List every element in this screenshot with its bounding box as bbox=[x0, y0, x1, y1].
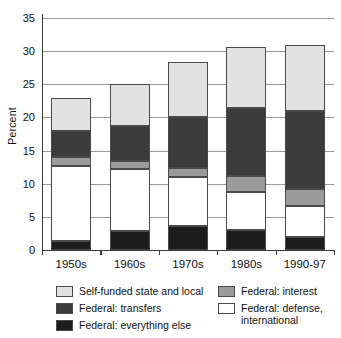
bar-segment bbox=[226, 192, 266, 230]
bar-segment bbox=[168, 62, 208, 116]
bar-column-1980s[interactable] bbox=[226, 18, 266, 250]
bar-segment bbox=[51, 98, 91, 131]
bar-segment bbox=[285, 237, 325, 250]
chart-figure: Percent 05101520253035 1950s1960s1970s19… bbox=[0, 0, 341, 338]
x-tick-mark bbox=[100, 250, 101, 255]
bar-column-1990-97[interactable] bbox=[285, 18, 325, 250]
bar-segment bbox=[51, 241, 91, 250]
y-tick-label-35: 35 bbox=[23, 13, 35, 24]
bar-segment bbox=[168, 117, 208, 169]
x-tick-label-1960s: 1960s bbox=[114, 257, 145, 271]
x-axis-tick-marks bbox=[42, 250, 334, 256]
legend-swatch-icon bbox=[56, 286, 73, 297]
legend-item[interactable]: Federal: transfers bbox=[56, 302, 216, 316]
x-tick-mark bbox=[276, 250, 277, 255]
bar-segment bbox=[110, 84, 150, 126]
legend-swatch-icon bbox=[218, 286, 235, 297]
bar-segment bbox=[51, 166, 91, 241]
bar-segment bbox=[110, 231, 150, 250]
y-axis-tick-labels: 05101520253035 bbox=[0, 0, 41, 282]
chart-legend: Self-funded state and localFederal: tran… bbox=[56, 285, 341, 338]
legend-label: Federal: defense, international bbox=[241, 302, 341, 326]
bar-segment bbox=[168, 226, 208, 250]
bar-segment bbox=[168, 177, 208, 226]
legend-column-left: Self-funded state and localFederal: tran… bbox=[56, 285, 216, 336]
x-tick-label-1970s: 1970s bbox=[172, 257, 203, 271]
x-tick-mark bbox=[217, 250, 218, 255]
legend-item[interactable]: Federal: interest bbox=[218, 285, 341, 299]
bar-column-1970s[interactable] bbox=[168, 18, 208, 250]
bar-segment bbox=[285, 189, 325, 206]
bar-segment bbox=[285, 111, 325, 189]
x-axis-tick-labels: 1950s1960s1970s1980s1990-97 bbox=[42, 257, 334, 277]
legend-swatch-icon bbox=[56, 320, 73, 331]
bar-segment bbox=[226, 47, 266, 109]
x-tick-label-1990-97: 1990-97 bbox=[284, 257, 326, 271]
legend-label: Federal: everything else bbox=[79, 319, 191, 331]
y-tick-label-10: 10 bbox=[23, 178, 35, 189]
bar-segment bbox=[110, 169, 150, 231]
legend-label: Federal: interest bbox=[241, 285, 317, 297]
bar-segment bbox=[51, 131, 91, 158]
bar-series-group bbox=[42, 18, 334, 250]
bar-segment bbox=[168, 168, 208, 177]
y-tick-label-15: 15 bbox=[23, 145, 35, 156]
bar-segment bbox=[285, 45, 325, 112]
plot-area: Percent 05101520253035 1950s1960s1970s19… bbox=[0, 0, 341, 282]
x-tick-label-1980s: 1980s bbox=[231, 257, 262, 271]
y-tick-label-25: 25 bbox=[23, 79, 35, 90]
bar-segment bbox=[51, 157, 91, 166]
y-tick-label-30: 30 bbox=[23, 46, 35, 57]
legend-label: Self-funded state and local bbox=[79, 285, 203, 297]
legend-label: Federal: transfers bbox=[79, 302, 161, 314]
bar-column-1950s[interactable] bbox=[51, 18, 91, 250]
legend-item[interactable]: Federal: defense, international bbox=[218, 302, 341, 326]
bar-segment bbox=[110, 126, 150, 160]
bar-segment bbox=[285, 206, 325, 237]
bar-column-1960s[interactable] bbox=[110, 18, 150, 250]
x-tick-mark bbox=[159, 250, 160, 255]
x-tick-label-1950s: 1950s bbox=[56, 257, 87, 271]
legend-swatch-icon bbox=[218, 303, 235, 314]
y-tick-label-20: 20 bbox=[23, 112, 35, 123]
bar-segment bbox=[110, 161, 150, 170]
bar-segment bbox=[226, 176, 266, 191]
y-tick-label-5: 5 bbox=[29, 211, 35, 222]
legend-swatch-icon bbox=[56, 303, 73, 314]
bar-segment bbox=[226, 230, 266, 250]
legend-item[interactable]: Federal: everything else bbox=[56, 319, 216, 333]
x-tick-mark bbox=[42, 250, 43, 255]
x-tick-mark bbox=[334, 250, 335, 255]
y-tick-label-0: 0 bbox=[29, 245, 35, 256]
legend-item[interactable]: Self-funded state and local bbox=[56, 285, 216, 299]
bar-segment bbox=[226, 108, 266, 176]
legend-column-right: Federal: interestFederal: defense, inter… bbox=[218, 285, 341, 329]
